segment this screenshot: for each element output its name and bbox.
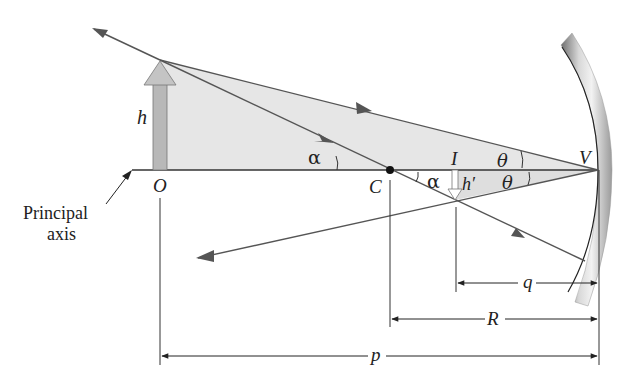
label-alpha-object: α — [308, 146, 321, 168]
label-h-prime: h′ — [462, 174, 476, 194]
mirror-diagram: h O C I h′ V α α θ θ q R p Principal axi… — [0, 0, 634, 391]
angle-arc-alpha-image — [416, 172, 418, 182]
label-p: p — [369, 344, 381, 365]
label-theta-upper: θ — [497, 150, 508, 171]
label-O: O — [153, 175, 167, 196]
principal-axis-pointer-arrowhead — [122, 170, 132, 180]
ray-arrowhead-top-left — [92, 28, 108, 38]
label-h: h — [137, 106, 147, 128]
label-V: V — [579, 147, 593, 168]
label-alpha-image: α — [427, 170, 440, 192]
ray-arrowhead-reflected — [196, 250, 214, 262]
label-axis: axis — [47, 224, 76, 244]
label-theta-lower: θ — [502, 172, 513, 193]
center-of-curvature-dot — [386, 166, 394, 174]
label-q: q — [523, 271, 533, 292]
label-principal: Principal — [23, 203, 88, 223]
label-C: C — [369, 176, 382, 197]
principal-axis-pointer — [106, 175, 128, 204]
label-R: R — [486, 308, 499, 329]
